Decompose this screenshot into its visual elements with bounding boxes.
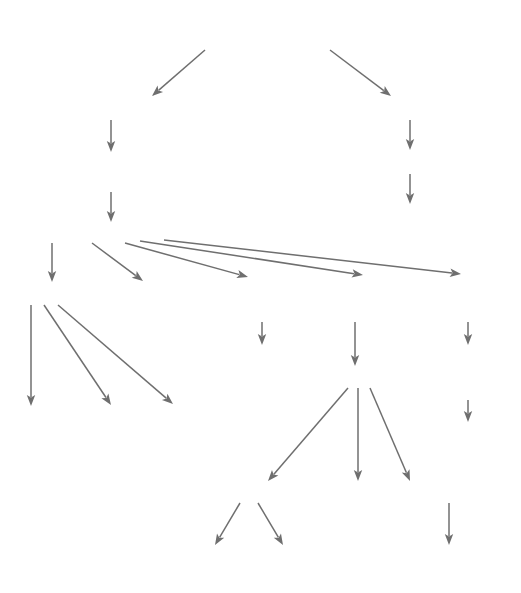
arrowhead-icon — [152, 86, 163, 96]
edge-line — [274, 388, 348, 474]
arrowhead-icon — [27, 395, 35, 406]
edge-line — [125, 243, 239, 275]
arrowhead-icon — [101, 394, 111, 405]
edge-layer — [0, 0, 521, 593]
edge-line — [258, 503, 278, 537]
edge-line — [220, 503, 240, 537]
edge-line — [58, 305, 166, 398]
arrowhead-icon — [464, 411, 472, 422]
edge-vasoconstr-to-metabolism — [48, 243, 56, 282]
edge-cold-to-bodytemp — [152, 50, 205, 96]
arrowhead-icon — [258, 334, 266, 345]
edge-softtissue-to-dexterity — [464, 400, 472, 422]
edge-heatcons-to-vasoconstr — [107, 192, 115, 222]
flowchart-diagram — [0, 0, 521, 593]
edge-nervefiring-to-musclespasm — [406, 120, 414, 150]
edge-swelling-to-localpain — [215, 503, 240, 545]
arrowhead-icon — [274, 533, 283, 545]
edge-vasoconstr-to-hunting — [92, 243, 143, 281]
edge-metabolism-to-hypoxia — [58, 305, 173, 404]
arrowhead-icon — [380, 86, 391, 96]
arrowhead-icon — [215, 533, 224, 545]
edge-line — [159, 50, 205, 90]
arrowhead-icon — [351, 355, 359, 366]
arrowhead-icon — [402, 469, 410, 481]
arrowhead-icon — [406, 193, 414, 204]
edge-line — [44, 305, 106, 398]
edge-jointinfl-to-jointpain — [258, 322, 266, 345]
edge-swelling-to-immobility — [258, 503, 283, 545]
arrowhead-icon — [445, 534, 453, 545]
edge-vasoconstr-to-fluidvisc — [164, 240, 461, 277]
arrowhead-icon — [107, 211, 115, 222]
arrowhead-icon — [406, 139, 414, 150]
arrowhead-icon — [132, 271, 143, 281]
edge-vasodil-to-cellmigr — [370, 388, 410, 481]
edge-metabolism-to-heartrate — [44, 305, 111, 405]
edge-vasodil-to-bloodloss — [354, 388, 362, 481]
edge-cellmigr-to-scarform — [445, 503, 453, 545]
arrowhead-icon — [268, 470, 278, 481]
arrowhead-icon — [464, 334, 472, 345]
edge-vasodil-to-swelling — [268, 388, 348, 481]
edge-bodytemp-to-heatcons — [107, 120, 115, 152]
edge-vasoconstr-to-jointinfl — [125, 243, 248, 278]
edge-vasoconstr-to-inflresp — [140, 241, 363, 277]
edge-line — [164, 240, 452, 273]
arrowhead-icon — [450, 269, 461, 277]
edge-cold-to-nervefiring — [330, 50, 391, 96]
edge-line — [330, 50, 384, 91]
edge-musclespasm-to-musclepain — [406, 174, 414, 204]
edge-line — [140, 241, 354, 274]
edge-line — [370, 388, 406, 473]
edge-metabolism-to-breathing — [27, 305, 35, 406]
arrowhead-icon — [354, 470, 362, 481]
arrowhead-icon — [236, 270, 248, 278]
arrowhead-icon — [162, 394, 173, 404]
arrowhead-icon — [351, 269, 363, 277]
arrowhead-icon — [48, 271, 56, 282]
edge-fluidvisc-to-softtissue — [464, 322, 472, 345]
edge-line — [92, 243, 136, 276]
edge-inflresp-to-vasodil — [351, 322, 359, 366]
arrowhead-icon — [107, 141, 115, 152]
